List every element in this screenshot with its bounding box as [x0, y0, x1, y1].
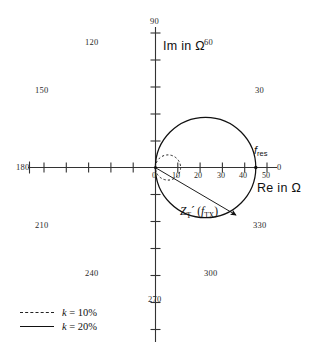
angle-label-30: 30 [255, 86, 264, 95]
angle-label-180: 180 [16, 163, 29, 172]
origin-marker [154, 166, 157, 169]
real-tick-label-20: 20 [194, 172, 202, 180]
real-tick-label-50: 50 [262, 172, 270, 180]
real-tick-label-30: 30 [217, 172, 225, 180]
angle-label-300: 300 [204, 269, 217, 278]
angle-label-270: 270 [148, 295, 161, 304]
legend: k = 10% k = 20% [20, 305, 150, 333]
legend-swatch-solid-line [20, 326, 54, 327]
legend-value-k20: = 20% [67, 321, 97, 332]
angle-label-240: 240 [85, 269, 98, 278]
locus-arg-subscript: TX [204, 211, 214, 220]
angle-label-90: 90 [150, 17, 159, 26]
fres-marker [254, 166, 257, 169]
legend-item-k10: k = 10% [20, 305, 150, 319]
figure-canvas: 90 60 30 0 330 300 270 240 210 180 150 1… [0, 0, 336, 355]
locus-label: ZT´ (fTX) [180, 206, 218, 218]
angle-label-0: 0 [277, 163, 281, 172]
fres-subscript: res [257, 149, 267, 158]
angle-label-150: 150 [35, 86, 48, 95]
legend-label-k10: k = 10% [62, 307, 97, 318]
real-tick-label-10: 10 [172, 172, 180, 180]
fres-label: fres [254, 145, 267, 156]
angle-label-330: 330 [253, 221, 266, 230]
imaginary-axis-title: Im in Ω [163, 40, 205, 53]
legend-value-k10: = 10% [67, 307, 97, 318]
legend-label-k20: k = 20% [62, 321, 97, 332]
polar-plot-svg [0, 0, 336, 355]
legend-item-k20: k = 20% [20, 319, 150, 333]
angle-label-60: 60 [204, 38, 213, 47]
legend-swatch-dashed-line [20, 312, 54, 313]
locus-subscript: T [186, 211, 191, 220]
real-tick-label-0: 0 [152, 172, 156, 180]
angle-label-120: 120 [85, 38, 98, 47]
real-axis-title: Re in Ω [257, 182, 301, 195]
real-tick-label-40: 40 [239, 172, 247, 180]
angle-label-210: 210 [35, 221, 48, 230]
